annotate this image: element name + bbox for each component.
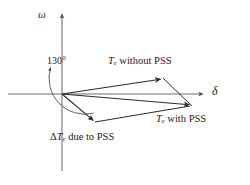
te-with-text: with PSS bbox=[165, 113, 206, 124]
delta-te-text: due to PSS bbox=[66, 131, 115, 142]
phasor-diagram-figure: ω δ 130° Te without PSS Te with PSS ΔTe … bbox=[0, 0, 250, 185]
te-without-text: without PSS bbox=[117, 55, 172, 66]
delta-te-prefix: Δ bbox=[50, 131, 57, 142]
vector-delta-te-due-to-pss bbox=[62, 94, 93, 120]
vector-te-without-pss bbox=[62, 79, 161, 94]
delta-axis-label: δ bbox=[212, 85, 218, 97]
vector-label-te-without-pss: Te without PSS bbox=[108, 56, 172, 67]
angle-label: 130° bbox=[47, 56, 66, 66]
vector-te-with-pss bbox=[62, 94, 189, 105]
omega-axis-label: ω bbox=[38, 9, 46, 20]
edge-without-to-with bbox=[163, 78, 192, 106]
vector-label-te-with-pss: Te with PSS bbox=[156, 114, 206, 125]
vector-label-delta-te-due-to-pss: ΔTe due to PSS bbox=[50, 132, 114, 143]
angle-arc bbox=[49, 68, 94, 115]
